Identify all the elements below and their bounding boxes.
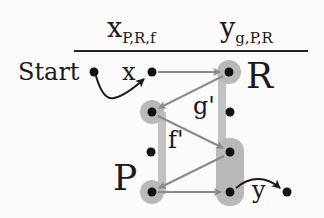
node-L3 (148, 188, 157, 197)
label-x: x (122, 60, 136, 84)
node-start (90, 68, 99, 77)
header-x-sub: P,R,f (122, 29, 155, 47)
header-y-label: yg,P,R (220, 14, 273, 46)
header-x-base: x (107, 12, 122, 43)
label-start: Start (18, 60, 80, 84)
header-y-base: y (220, 12, 235, 43)
label-P: P (113, 160, 137, 196)
label-g: g' (193, 94, 215, 118)
node-x (148, 68, 157, 77)
label-y: y (252, 178, 266, 202)
edge-R2-L3 (159, 156, 224, 188)
node-y-end (283, 188, 292, 197)
node-R-top (225, 68, 234, 77)
label-f: f' (168, 128, 183, 152)
header-y-sub: g,P,R (235, 29, 273, 47)
node-L2 (147, 148, 156, 157)
diagram-canvas (0, 0, 324, 218)
label-R: R (246, 58, 273, 94)
node-R1 (226, 108, 235, 117)
header-x-label: xP,R,f (107, 14, 156, 46)
node-R3 (226, 188, 235, 197)
curve-start-x (96, 76, 144, 98)
node-L1 (148, 108, 157, 117)
node-R2 (226, 148, 235, 157)
left-column-bar (158, 112, 166, 194)
